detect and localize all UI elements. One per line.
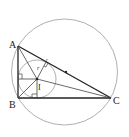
bisector-C bbox=[37, 79, 111, 98]
incenter-point bbox=[36, 78, 39, 81]
geometry-diagram: A B C I r r bbox=[0, 0, 129, 137]
label-r-2: r bbox=[46, 57, 48, 62]
label-I: I bbox=[38, 83, 41, 92]
side-AC bbox=[18, 46, 111, 98]
label-r-1: r bbox=[37, 65, 40, 71]
label-C: C bbox=[113, 95, 120, 106]
label-B: B bbox=[9, 99, 16, 110]
midpoint-AC bbox=[65, 71, 67, 73]
label-A: A bbox=[9, 39, 17, 50]
